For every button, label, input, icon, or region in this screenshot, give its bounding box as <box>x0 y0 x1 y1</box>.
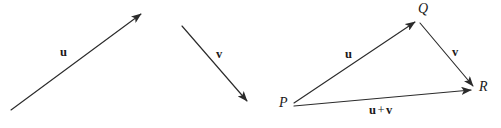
vector-v-label: v <box>216 48 222 61</box>
vector-v-arrow <box>182 26 247 101</box>
triangle-vector-sum-label: u+v <box>369 104 392 117</box>
sum-label-term-v: v <box>386 103 392 117</box>
point-q-label: Q <box>418 2 428 16</box>
triangle-vector-u-arrow <box>294 22 415 103</box>
sum-label-operator: + <box>376 103 386 117</box>
vector-u-panel <box>11 14 141 110</box>
triangle-vector-v-label: v <box>452 46 458 59</box>
vector-u-arrow <box>11 14 141 110</box>
triangle-vector-v-arrow <box>420 23 473 86</box>
point-p-label: P <box>279 96 288 110</box>
vector-v-panel <box>182 26 247 101</box>
sum-label-term-u: u <box>369 103 376 117</box>
figure-canvas <box>0 0 501 128</box>
vector-addition-figure: u v u v u+v P Q R <box>0 0 501 128</box>
point-r-label: R <box>479 80 488 94</box>
triangle-vector-u-label: u <box>345 48 352 61</box>
vector-u-label: u <box>60 46 67 59</box>
triangle-panel <box>294 22 473 106</box>
